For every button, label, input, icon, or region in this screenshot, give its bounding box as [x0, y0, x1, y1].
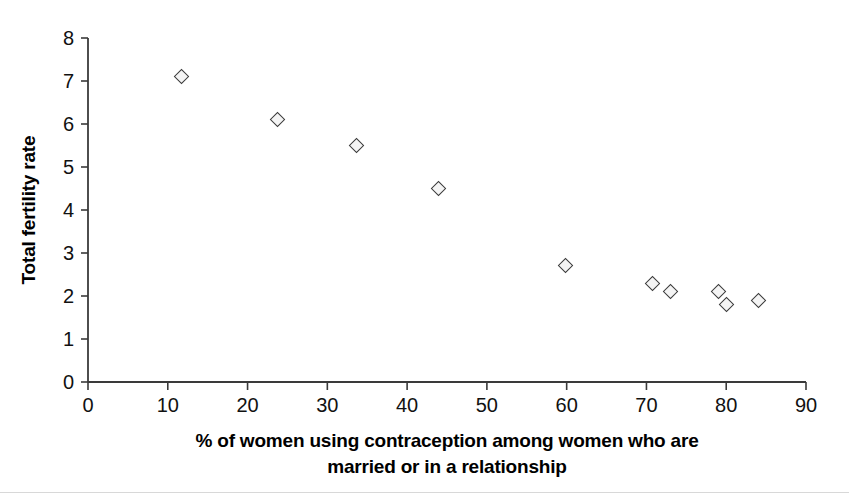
- data-point-marker: [718, 297, 734, 313]
- y-tick-label: 4: [63, 200, 74, 220]
- data-point-marker: [269, 112, 285, 128]
- data-point-marker: [430, 181, 446, 197]
- x-axis-title-line-2: married or in a relationship: [88, 454, 806, 480]
- y-axis-tick-labels: 012345678: [50, 0, 74, 503]
- y-tick-label: 8: [63, 28, 74, 48]
- x-tick-label: 90: [795, 395, 817, 415]
- x-tick-label: 80: [715, 395, 737, 415]
- data-point-marker: [174, 69, 190, 85]
- y-tick-label: 5: [63, 157, 74, 177]
- y-tick-label: 3: [63, 243, 74, 263]
- y-tick-label: 2: [63, 286, 74, 306]
- x-tick-label: 40: [396, 395, 418, 415]
- scatter-chart-figure: 012345678 0102030405060708090 Total fert…: [0, 0, 849, 503]
- data-point-marker: [557, 258, 573, 274]
- data-point-marker: [750, 293, 766, 309]
- x-axis-title-line-1: % of women using contraception among wom…: [195, 430, 698, 451]
- y-tick-label: 7: [63, 71, 74, 91]
- x-tick-label: 30: [316, 395, 338, 415]
- x-tick-label: 0: [82, 395, 93, 415]
- y-axis-title: Total fertility rate: [14, 38, 44, 382]
- y-tick-label: 0: [63, 372, 74, 392]
- data-point-marker: [349, 138, 365, 154]
- x-axis-tick-labels: 0102030405060708090: [0, 395, 849, 421]
- y-tick-label: 1: [63, 329, 74, 349]
- x-tick-label: 70: [635, 395, 657, 415]
- bottom-divider: [0, 492, 849, 493]
- x-axis-title: % of women using contraception among wom…: [88, 428, 806, 480]
- plot-area: [88, 38, 806, 382]
- x-tick-label: 50: [476, 395, 498, 415]
- data-point-marker: [645, 275, 661, 291]
- x-tick-label: 10: [157, 395, 179, 415]
- x-tick-label: 60: [556, 395, 578, 415]
- data-point-marker: [710, 284, 726, 300]
- data-point-marker: [663, 284, 679, 300]
- x-tick-label: 20: [236, 395, 258, 415]
- y-tick-label: 6: [63, 114, 74, 134]
